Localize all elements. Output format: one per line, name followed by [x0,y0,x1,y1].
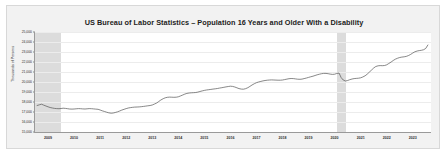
y-axis-line [34,32,35,132]
x-tick-label: 2013 [148,136,156,140]
y-tick-label: 24,000 [22,40,32,44]
chart-title: US Bureau of Labor Statistics – Populati… [7,18,441,27]
chart-screenshot: US Bureau of Labor Statistics – Populati… [0,0,446,154]
y-tick-label: 16,000 [22,120,32,124]
y-tick-label: 25,000 [22,30,32,34]
y-tick-label: 18,000 [22,100,32,104]
x-tick-label: 2016 [226,136,234,140]
series-line-population-16-years-and-older-with-a-disability [37,45,428,113]
x-tick-label: 2021 [357,136,365,140]
y-tick-label: 21,000 [22,70,32,74]
x-tick-label: 2017 [252,136,260,140]
x-tick-label: 2022 [383,136,391,140]
x-tick-label: 2010 [70,136,78,140]
y-tick-label: 22,000 [22,60,32,64]
data-series-line [35,32,431,132]
y-tick-label: 20,000 [22,80,32,84]
x-tick-label: 2011 [96,136,104,140]
y-tick-label: 15,000 [22,130,32,134]
plot-area: 15,00016,00017,00018,00019,00020,00021,0… [35,32,431,132]
x-tick-label: 2015 [200,136,208,140]
x-tick-label: 2020 [331,136,339,140]
x-tick-label: 2019 [305,136,313,140]
x-tick-label: 2012 [122,136,130,140]
x-tick-label: 2014 [174,136,182,140]
x-tick-label: 2009 [44,136,52,140]
chart-card: US Bureau of Labor Statistics – Populati… [6,5,440,149]
y-axis-label: Thousands of Persons [11,40,15,88]
x-axis-line [34,132,431,133]
y-tick-label: 17,000 [22,110,32,114]
x-tick-label: 2018 [279,136,287,140]
y-tick-label: 19,000 [22,90,32,94]
y-tick-label: 23,000 [22,50,32,54]
x-tick-label: 2023 [409,136,417,140]
